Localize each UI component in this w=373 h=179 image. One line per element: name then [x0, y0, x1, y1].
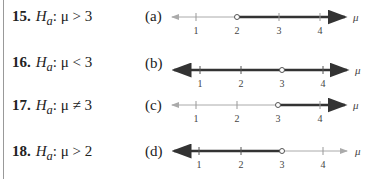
svg-text:2: 2 — [235, 25, 240, 36]
svg-text:3: 3 — [280, 78, 285, 89]
svg-text:3: 3 — [276, 113, 281, 124]
number-line-d: 1234 μ — [174, 145, 361, 170]
svg-text:2: 2 — [239, 78, 244, 89]
svg-text:2: 2 — [239, 159, 244, 170]
svg-text:4: 4 — [318, 113, 323, 124]
svg-text:2: 2 — [235, 113, 240, 124]
svg-text:μ: μ — [352, 11, 359, 23]
svg-text:1: 1 — [194, 25, 199, 36]
svg-text:μ: μ — [354, 64, 361, 76]
number-line-b: 1234 μ — [174, 64, 361, 89]
svg-text:4: 4 — [321, 78, 326, 89]
svg-text:3: 3 — [277, 25, 282, 36]
svg-text:4: 4 — [318, 25, 323, 36]
svg-text:3: 3 — [280, 159, 285, 170]
svg-text:1: 1 — [198, 78, 203, 89]
number-line-a: 1234 μ — [172, 11, 359, 36]
svg-text:1: 1 — [194, 113, 199, 124]
svg-text:μ: μ — [352, 99, 359, 111]
svg-text:4: 4 — [321, 159, 326, 170]
number-lines: 1234 μ 1234 μ 1234 μ 1234 μ — [0, 0, 373, 179]
svg-text:1: 1 — [197, 159, 202, 170]
svg-text:μ: μ — [354, 145, 361, 157]
number-line-c: 1234 μ — [172, 99, 359, 124]
